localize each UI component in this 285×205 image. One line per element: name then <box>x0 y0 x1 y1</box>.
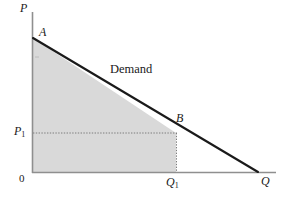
demand-curve-figure: P Q 0 A B P1 Q1 Demand <box>0 0 285 205</box>
y-axis-label: P <box>20 2 27 14</box>
price-p1-subscript: 1 <box>21 130 25 139</box>
quantity-q1-base: Q <box>166 175 175 189</box>
demand-curve-label: Demand <box>110 63 152 76</box>
quantity-q1-subscript: 1 <box>175 181 179 190</box>
quantity-q1-label: Q1 <box>166 176 179 190</box>
price-p1-label: P1 <box>14 125 25 139</box>
point-a-label: A <box>39 26 46 38</box>
shaded-area-under-demand <box>33 38 176 172</box>
point-b-label: B <box>176 112 183 124</box>
x-axis-label: Q <box>261 175 270 187</box>
origin-label: 0 <box>19 173 25 184</box>
